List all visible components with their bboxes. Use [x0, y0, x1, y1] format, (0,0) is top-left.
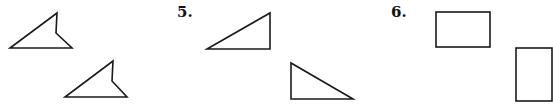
- rectangle-figure-6a: [436, 12, 490, 47]
- triangle-figure-5a: [207, 13, 270, 49]
- quadrilateral-figure-b: [65, 61, 127, 97]
- quadrilateral-figure-a: [10, 13, 72, 48]
- figures-canvas: [0, 0, 553, 108]
- triangle-figure-5b: [291, 63, 353, 99]
- rectangle-figure-6b: [516, 48, 552, 101]
